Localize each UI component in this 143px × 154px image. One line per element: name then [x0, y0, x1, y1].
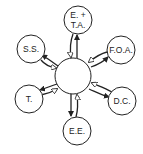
node-ss-label: S.S. — [23, 44, 39, 54]
node-ee: E.E. — [63, 117, 91, 145]
node-dc: D.C. — [108, 87, 136, 115]
arrow-ee-to-center — [76, 95, 78, 117]
hub-diagram: E. + T.A. S.S. F.O.A. T. D.C. E.E. — [0, 0, 143, 154]
arrow-t-to-center — [41, 89, 57, 95]
node-ss: S.S. — [17, 35, 45, 63]
arrow-dc-to-center — [92, 83, 112, 92]
center-hub — [55, 58, 91, 94]
arrow-center-to-ss — [42, 55, 58, 66]
node-ee-label: E.E. — [69, 126, 85, 136]
node-t: T. — [15, 85, 43, 113]
node-et: E. + T.A. — [64, 6, 92, 34]
arrow-et-to-center — [70, 34, 73, 57]
node-t-label: T. — [26, 94, 33, 104]
node-dc-label: D.C. — [114, 96, 131, 106]
arrow-ss-to-center — [41, 60, 56, 68]
arrow-center-to-dc — [89, 89, 109, 97]
node-et-label-2: T.A. — [71, 20, 86, 30]
node-foa-label: F.O.A. — [109, 45, 133, 55]
arrow-center-to-t — [40, 84, 57, 90]
node-et-label-1: E. + — [70, 10, 85, 20]
node-foa: F.O.A. — [107, 36, 135, 64]
